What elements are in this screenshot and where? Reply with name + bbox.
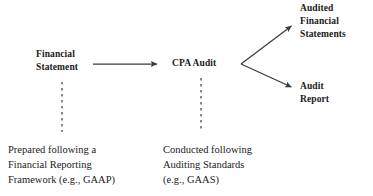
caption-financial-reporting-framework: Prepared following a Financial Reporting…	[8, 142, 115, 187]
caption-financial-reporting-framework-line2: Financial Reporting	[8, 157, 115, 172]
node-audit-report-line1: Audit	[300, 80, 329, 93]
node-audited-financial-statements-line3: Statements	[300, 28, 346, 41]
audit-to-report-arrow	[241, 64, 291, 87]
caption-financial-reporting-framework-line3: Framework (e.g., GAAP)	[8, 172, 115, 187]
caption-auditing-standards: Conducted following Auditing Standards (…	[163, 142, 252, 187]
audit-flow-diagram: Financial Statement CPA Audit Audited Fi…	[0, 0, 373, 196]
node-cpa-audit: CPA Audit	[172, 57, 216, 70]
caption-financial-reporting-framework-line1: Prepared following a	[8, 142, 115, 157]
caption-auditing-standards-line1: Conducted following	[163, 142, 252, 157]
node-financial-statement: Financial Statement	[36, 48, 78, 74]
node-audit-report-line2: Report	[300, 93, 329, 106]
node-cpa-audit-line1: CPA Audit	[172, 57, 216, 70]
node-audit-report: Audit Report	[300, 80, 329, 106]
caption-auditing-standards-line2: Auditing Standards	[163, 157, 252, 172]
node-audited-financial-statements-line2: Financial	[300, 15, 346, 28]
node-audited-financial-statements: Audited Financial Statements	[300, 2, 346, 41]
node-audited-financial-statements-line1: Audited	[300, 2, 346, 15]
caption-auditing-standards-line3: (e.g., GAAS)	[163, 172, 252, 187]
audit-to-statements-arrow	[241, 26, 291, 64]
node-financial-statement-line2: Statement	[36, 61, 78, 74]
node-financial-statement-line1: Financial	[36, 48, 78, 61]
